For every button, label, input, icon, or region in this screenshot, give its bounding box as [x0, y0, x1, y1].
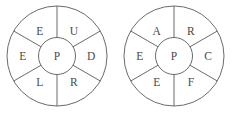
left-wheel-letter-right: D	[87, 50, 96, 62]
right-wheel-hub-letter: P	[171, 50, 177, 62]
left-wheel-letter-top-right: U	[70, 25, 79, 37]
word-wheel-figure: E U D R L E P A R C F E E P	[0, 0, 234, 114]
left-wheel-letter-left: E	[19, 50, 26, 62]
left-wheel-letter-top-left: E	[36, 25, 43, 37]
right-wheel-letter-top-left: A	[153, 25, 162, 37]
word-wheel-svg: E U D R L E P A R C F E E P	[0, 0, 234, 114]
right-wheel: A R C F E E P	[124, 6, 224, 106]
right-wheel-letter-bottom-left: E	[153, 76, 160, 88]
left-wheel-letter-bottom-right: R	[70, 76, 78, 88]
left-wheel-hub-letter: P	[54, 50, 60, 62]
right-wheel-letter-left: E	[136, 50, 143, 62]
right-wheel-letter-top-right: R	[187, 25, 195, 37]
right-wheel-letter-bottom-right: F	[188, 76, 195, 88]
right-wheel-letter-right: C	[204, 50, 212, 62]
left-wheel-letter-bottom-left: L	[36, 76, 43, 88]
left-wheel: E U D R L E P	[7, 6, 107, 106]
